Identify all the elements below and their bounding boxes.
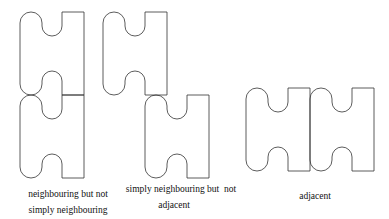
puzzle-piece — [246, 88, 310, 171]
puzzle-piece — [20, 12, 84, 95]
puzzle-piece — [145, 95, 209, 178]
caption-line: adjacent — [275, 188, 355, 204]
puzzle-piece — [103, 12, 167, 95]
piece-group-simply-neighbouring-not-adjacent — [103, 12, 209, 178]
caption-adjacent: adjacent — [275, 188, 355, 204]
puzzle-piece — [20, 95, 84, 178]
piece-group-neighbouring-not-simply — [20, 12, 84, 178]
puzzle-piece — [310, 88, 374, 171]
piece-group-adjacent — [246, 88, 374, 171]
caption-simply-neighbouring-not-adjacent: simply neighbouring but not adjacent — [106, 181, 256, 213]
caption-line: adjacent — [106, 197, 256, 213]
caption-line: simply neighbouring but not — [106, 181, 256, 197]
